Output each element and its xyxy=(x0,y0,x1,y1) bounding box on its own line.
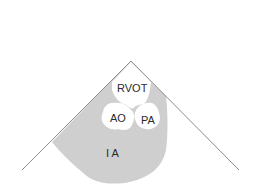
label-pa: PA xyxy=(141,114,156,126)
label-la: I A xyxy=(106,147,120,159)
echo-sector-diagram: RVOT AO PA I A xyxy=(0,0,261,190)
label-rvot: RVOT xyxy=(117,82,148,94)
label-ao: AO xyxy=(110,112,126,124)
